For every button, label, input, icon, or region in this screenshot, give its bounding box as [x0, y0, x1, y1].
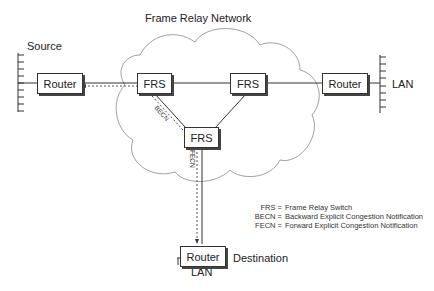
router-right: Router	[322, 73, 368, 94]
frs-left: FRS	[137, 73, 172, 94]
becn-label: BECN	[153, 104, 170, 122]
legend-row-fecn: FECN =Forward Explicit Congestion Notifi…	[240, 221, 423, 230]
source-label: Source	[27, 40, 62, 52]
legend: FRS =Frame Relay Switch BECN =Backward E…	[240, 203, 423, 230]
frs-right: FRS	[230, 73, 266, 94]
destination-label: Destination	[233, 252, 288, 264]
router-destination: Router	[180, 246, 226, 267]
fecn-label: FECN	[189, 150, 196, 168]
legend-row-becn: BECN =Backward Explicit Congestion Notif…	[240, 212, 423, 221]
network-title: Frame Relay Network	[145, 12, 251, 24]
frs-bottom: FRS	[184, 127, 219, 148]
router-source: Router	[37, 73, 83, 94]
frame-relay-cloud	[116, 29, 319, 182]
lan-right-label: LAN	[392, 78, 413, 90]
lan-bottom-label: LAN	[191, 266, 212, 278]
legend-row-frs: FRS =Frame Relay Switch	[240, 203, 423, 212]
